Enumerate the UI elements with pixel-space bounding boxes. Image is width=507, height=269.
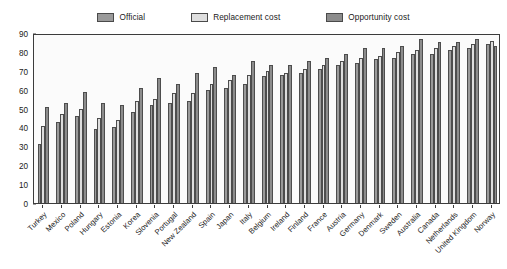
bar-opportunity-cost — [195, 73, 199, 203]
bar-group — [482, 35, 500, 203]
bar-opportunity-cost — [120, 105, 124, 203]
y-axis-tick-label: 60 — [19, 86, 28, 95]
bar-opportunity-cost — [64, 103, 68, 203]
x-axis-tick-mark — [117, 205, 118, 208]
bar-group — [445, 35, 464, 203]
bar-opportunity-cost — [45, 107, 49, 203]
x-axis-tick-mark — [323, 205, 324, 208]
legend-item-replacement-cost: Replacement cost — [191, 13, 280, 22]
x-axis-labels: TurkeyMexicoPolandHungaryEstoniaKoreaSlo… — [33, 205, 500, 269]
bar-group — [239, 35, 258, 203]
legend-swatch-opportunity-cost — [326, 13, 343, 22]
x-axis-tick-mark — [210, 205, 211, 208]
x-axis-tick-mark — [192, 205, 193, 208]
bar-opportunity-cost — [325, 58, 329, 203]
x-axis-tick-mark — [267, 205, 268, 208]
bar-opportunity-cost — [382, 48, 386, 203]
bar-opportunity-cost — [363, 48, 367, 203]
x-axis-tick-mark — [397, 205, 398, 208]
y-axis-tick-label: 70 — [19, 67, 28, 76]
y-axis-tick-label: 20 — [19, 162, 28, 171]
x-axis-tick-mark — [136, 205, 137, 208]
x-axis-tick-mark — [360, 205, 361, 208]
bar-group — [165, 35, 184, 203]
x-axis-tick-mark — [472, 205, 473, 208]
bar-group — [221, 35, 240, 203]
x-axis-tick-mark — [80, 205, 81, 208]
bar-opportunity-cost — [269, 65, 273, 203]
x-axis-tick-mark — [453, 205, 454, 208]
bar-group — [464, 35, 483, 203]
x-axis-tick-mark — [304, 205, 305, 208]
legend-swatch-official — [97, 13, 114, 22]
bar-group — [352, 35, 371, 203]
bar-opportunity-cost — [438, 42, 442, 203]
bar-group — [127, 35, 146, 203]
bars-layer — [34, 35, 499, 203]
bar-group — [183, 35, 202, 203]
x-axis-tick-mark — [491, 205, 492, 208]
x-axis-tick-mark — [379, 205, 380, 208]
x-axis-tick-mark — [98, 205, 99, 208]
legend-label-replacement-cost: Replacement cost — [213, 13, 280, 22]
bar-group — [34, 35, 53, 203]
x-axis-tick-mark — [42, 205, 43, 208]
y-axis: 0102030405060708090 — [0, 34, 33, 204]
y-axis-tick-label: 80 — [19, 48, 28, 57]
legend-label-opportunity-cost: Opportunity cost — [348, 13, 409, 22]
x-axis-tick-mark — [285, 205, 286, 208]
bar-group — [333, 35, 352, 203]
bar-opportunity-cost — [176, 84, 180, 203]
bar-chart: Official Replacement cost Opportunity co… — [0, 0, 507, 269]
bar-opportunity-cost — [456, 42, 460, 203]
x-axis-tick-mark — [416, 205, 417, 208]
plot-area — [33, 34, 500, 204]
legend-item-official: Official — [97, 13, 145, 22]
bar-group — [53, 35, 72, 203]
x-axis-tick-mark — [341, 205, 342, 208]
bar-group — [109, 35, 128, 203]
x-axis-tick-mark — [61, 205, 62, 208]
bar-group — [389, 35, 408, 203]
bar-group — [71, 35, 90, 203]
bar-group — [296, 35, 315, 203]
x-axis-tick-mark — [154, 205, 155, 208]
bar-opportunity-cost — [213, 67, 217, 203]
y-axis-tick-label: 40 — [19, 124, 28, 133]
x-axis-tick-mark — [248, 205, 249, 208]
bar-group — [314, 35, 333, 203]
bar-opportunity-cost — [475, 39, 479, 203]
bar-opportunity-cost — [419, 39, 423, 203]
x-axis-tick-mark — [173, 205, 174, 208]
bar-opportunity-cost — [400, 46, 404, 203]
y-axis-tick-label: 10 — [19, 181, 28, 190]
bar-opportunity-cost — [83, 92, 87, 203]
bar-opportunity-cost — [307, 61, 311, 203]
bar-opportunity-cost — [157, 78, 161, 203]
bar-opportunity-cost — [494, 46, 498, 203]
bar-group — [277, 35, 296, 203]
y-axis-tick-label: 30 — [19, 143, 28, 152]
bar-opportunity-cost — [288, 65, 292, 203]
x-axis-tick-mark — [435, 205, 436, 208]
bar-group — [426, 35, 445, 203]
bar-opportunity-cost — [344, 54, 348, 203]
legend-swatch-replacement-cost — [191, 13, 208, 22]
legend-label-official: Official — [119, 13, 145, 22]
bar-group — [258, 35, 277, 203]
x-axis-tick-mark — [229, 205, 230, 208]
legend-item-opportunity-cost: Opportunity cost — [326, 13, 409, 22]
bar-group — [146, 35, 165, 203]
y-axis-tick-label: 50 — [19, 105, 28, 114]
bar-opportunity-cost — [139, 88, 143, 203]
y-axis-tick-label: 90 — [19, 30, 28, 39]
bar-group — [90, 35, 109, 203]
bar-group — [202, 35, 221, 203]
bar-opportunity-cost — [251, 61, 255, 203]
bar-opportunity-cost — [101, 103, 105, 203]
y-axis-tick-label: 0 — [23, 200, 28, 209]
chart-legend: Official Replacement cost Opportunity co… — [0, 9, 507, 25]
bar-group — [408, 35, 427, 203]
bar-opportunity-cost — [232, 75, 236, 203]
bar-group — [370, 35, 389, 203]
